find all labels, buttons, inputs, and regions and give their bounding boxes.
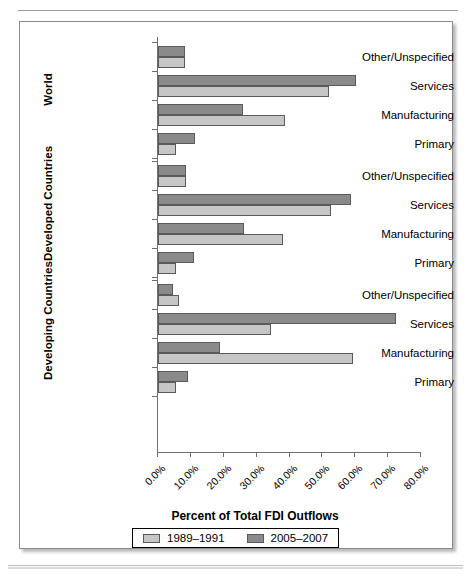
legend-label-2005-2007: 2005–2007	[271, 532, 329, 544]
x-axis-tick	[190, 452, 191, 457]
bar-1989-1991	[158, 234, 283, 245]
bar-1989-1991	[158, 205, 331, 216]
bar-2005-2007	[158, 165, 186, 176]
bar-1989-1991	[158, 176, 186, 187]
group-label-developing-countries: Developing Countries	[42, 275, 54, 380]
category-label: Other/Unspecified	[330, 51, 454, 63]
bar-2005-2007	[158, 46, 185, 57]
bar-2005-2007	[158, 133, 195, 144]
y-axis-tick	[152, 100, 157, 101]
x-axis-tick	[420, 452, 421, 457]
bar-1989-1991	[158, 57, 185, 68]
bar-2005-2007	[158, 252, 194, 263]
legend-entry-2005-2007: 2005–2007	[247, 532, 329, 544]
category-label: Primary	[330, 257, 454, 269]
category-label: Primary	[330, 376, 454, 388]
figure-panel: 0.0%10.0%20.0%30.0%40.0%50.0%60.0%70.0%8…	[19, 21, 453, 549]
x-axis-tick	[289, 452, 290, 457]
legend-entry-1989-1991: 1989–1991	[143, 532, 225, 544]
x-axis-title: Percent of Total FDI Outflows	[90, 509, 420, 523]
page-header-ghost-text	[120, 0, 280, 9]
y-axis-tick	[152, 309, 157, 310]
bar-2005-2007	[158, 223, 244, 234]
category-label: Manufacturing	[330, 228, 454, 240]
bar-2005-2007	[158, 104, 243, 115]
page-bottom-rule	[8, 565, 463, 566]
y-axis-tick	[152, 277, 157, 278]
y-axis-tick	[152, 42, 157, 43]
bar-2005-2007	[158, 284, 173, 295]
group-label-developed-countries: Developed Countries	[42, 156, 54, 261]
x-axis-tick	[157, 452, 158, 457]
y-axis-tick	[152, 338, 157, 339]
y-axis-tick	[152, 129, 157, 130]
x-axis-tick	[387, 452, 388, 457]
legend-label-1989-1991: 1989–1991	[167, 532, 225, 544]
y-axis-tick	[152, 71, 157, 72]
page-top-rule	[18, 10, 458, 11]
category-label: Other/Unspecified	[330, 170, 454, 182]
page-bottom-rule-thick	[8, 567, 463, 569]
y-axis-tick	[152, 158, 157, 159]
chart-legend: 1989–1991 2005–2007	[132, 528, 339, 548]
bar-1989-1991	[158, 86, 329, 97]
y-axis-tick	[152, 219, 157, 220]
category-label: Primary	[330, 138, 454, 150]
y-axis-tick	[152, 367, 157, 368]
bar-1989-1991	[158, 353, 353, 364]
bar-2005-2007	[158, 194, 351, 205]
x-axis-tick	[321, 452, 322, 457]
bar-2005-2007	[158, 75, 356, 86]
bar-1989-1991	[158, 324, 271, 335]
bar-2005-2007	[158, 313, 396, 324]
bar-1989-1991	[158, 382, 176, 393]
bar-chart-plot-area: 0.0%10.0%20.0%30.0%40.0%50.0%60.0%70.0%8…	[20, 22, 454, 550]
category-label: Other/Unspecified	[330, 289, 454, 301]
y-axis-tick	[152, 248, 157, 249]
bar-2005-2007	[158, 371, 188, 382]
y-axis-tick	[152, 280, 157, 281]
x-axis-tick	[354, 452, 355, 457]
bar-1989-1991	[158, 295, 179, 306]
y-axis-tick	[152, 396, 157, 397]
y-axis-tick	[152, 190, 157, 191]
category-label: Manufacturing	[330, 109, 454, 121]
bar-1989-1991	[158, 144, 176, 155]
bar-1989-1991	[158, 115, 285, 126]
y-axis-tick	[152, 161, 157, 162]
x-axis-tick	[256, 452, 257, 457]
group-label-world: World	[42, 37, 54, 142]
x-axis-tick	[223, 452, 224, 457]
bar-1989-1991	[158, 263, 176, 274]
legend-swatch-icon-1989-1991	[143, 534, 160, 543]
legend-swatch-icon-2005-2007	[247, 534, 264, 543]
bar-2005-2007	[158, 342, 220, 353]
